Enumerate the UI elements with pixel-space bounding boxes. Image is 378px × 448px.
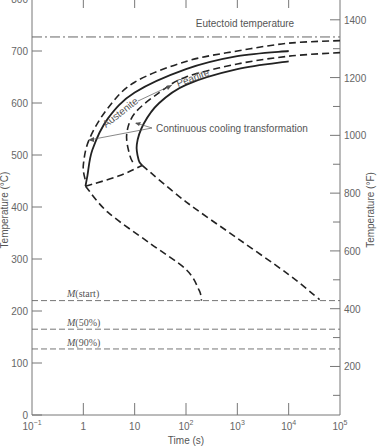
- curve-connector-dashed: [86, 165, 143, 186]
- curve-lower-dashed-to-m-start-left: [86, 186, 202, 300]
- y-tick-label-right: 800: [344, 188, 361, 199]
- austenite-pearlite-annotation: Austenite Pearlite: [100, 67, 210, 130]
- y-tick-label-left: 500: [11, 150, 28, 161]
- m-50-label: M(50%): [66, 317, 100, 329]
- y-tick-label-left: 600: [11, 98, 28, 109]
- y-tick-label-right: 200: [344, 361, 361, 372]
- y-tick-label-right: 1400: [344, 15, 367, 26]
- y-tick-label-right: 1200: [344, 73, 367, 84]
- curve-continuous-cooling-transformation-finish: [137, 61, 289, 165]
- m-90-label: M(90%): [66, 337, 100, 349]
- x-tick-label: 10−1: [22, 419, 41, 432]
- x-tick-label: 10: [129, 421, 141, 432]
- pearlite-label: Pearlite: [175, 67, 211, 89]
- x-tick-label: 102: [178, 419, 193, 432]
- y-tick-label-right: 600: [344, 246, 361, 257]
- ttt-cct-diagram: 0100200300400500600700800200400600800100…: [0, 0, 378, 448]
- x-tick-label: 105: [332, 419, 347, 432]
- arrowhead-icon: [166, 85, 172, 90]
- x-tick-label: 104: [281, 419, 296, 432]
- austenite-label: Austenite: [100, 95, 140, 130]
- y-tick-label-left: 700: [11, 46, 28, 57]
- x-tick-label: 103: [230, 419, 245, 432]
- x-axis-title: Time (s): [168, 435, 204, 446]
- eutectoid-label: Eutectoid temperature: [196, 18, 295, 29]
- axes: [32, 0, 340, 415]
- cct-label: Continuous cooling transformation: [156, 123, 308, 134]
- y-tick-label-left: 400: [11, 202, 28, 213]
- y-tick-label-left: 800: [11, 0, 28, 5]
- y-tick-label-right: 1000: [344, 130, 367, 141]
- y-tick-label-left: 200: [11, 306, 28, 317]
- y-tick-label-left: 300: [11, 254, 28, 265]
- transformation-curves: [83, 41, 340, 301]
- x-tick-label: 1: [81, 421, 87, 432]
- cct-annotation: Continuous cooling transformation: [88, 122, 308, 142]
- y-axis-title-left: Temperature (°C): [0, 172, 10, 249]
- m-start-label: M(start): [66, 288, 99, 300]
- y-tick-label-right: 400: [344, 304, 361, 315]
- y-tick-label-left: 0: [22, 410, 28, 421]
- curve-lower-dashed-to-m-start-right: [142, 165, 319, 299]
- y-tick-label-left: 100: [11, 358, 28, 369]
- ticks: 0100200300400500600700800200400600800100…: [11, 0, 366, 432]
- y-axis-title-right: Temperature (°F): [365, 172, 376, 248]
